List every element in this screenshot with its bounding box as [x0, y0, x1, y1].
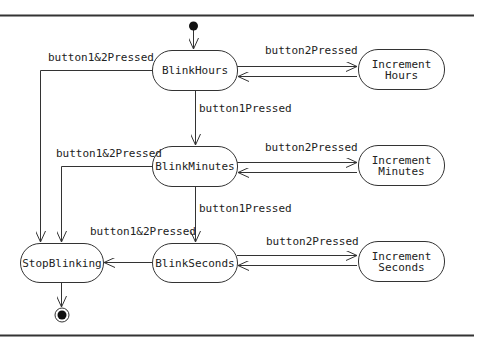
state-increment-seconds: Increment Seconds: [358, 241, 445, 282]
state-blink-minutes: BlinkMinutes: [152, 146, 238, 187]
state-increment-hours: Increment Hours: [358, 49, 445, 90]
state-blink-hours: BlinkHours: [152, 50, 238, 91]
initial-state-icon: [189, 22, 198, 31]
label-minutes-b12: button1&2Pressed: [56, 148, 162, 160]
state-increment-minutes: Increment Minutes: [358, 145, 445, 186]
label-seconds-b2: button2Pressed: [266, 236, 359, 248]
label-hours-b2: button2Pressed: [265, 45, 358, 57]
label-minutes-b2: button2Pressed: [265, 142, 358, 154]
label-seconds-b12: button1&2Pressed: [90, 226, 196, 238]
label-hours-b12: button1&2Pressed: [48, 52, 154, 64]
label-hours-b1: button1Pressed: [199, 103, 292, 115]
state-blink-seconds: BlinkSeconds: [152, 243, 238, 283]
state-stop-blinking: StopBlinking: [20, 243, 104, 283]
label-minutes-b1: button1Pressed: [199, 203, 292, 215]
